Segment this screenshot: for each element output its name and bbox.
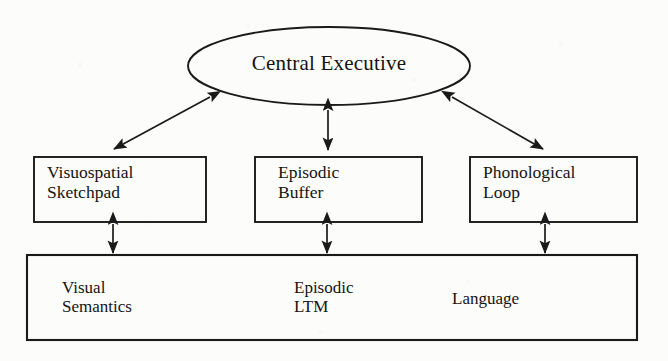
episodic-ltm-label: Episodic LTM [294, 278, 444, 316]
visuospatial-sketchpad-label: Visuospatial Sketchpad [47, 163, 207, 202]
episodic-buffer-label: Episodic Buffer [278, 163, 428, 202]
connector-ce-to-visuospatial [114, 97, 210, 149]
language-label: Language [452, 289, 602, 308]
connector-ce-to-phonological [452, 97, 543, 149]
visual-semantics-label: Visual Semantics [62, 278, 222, 316]
central-executive-label: Central Executive [188, 52, 470, 76]
working-memory-diagram: Central Executive Visuospatial Sketchpad… [0, 0, 668, 361]
phonological-loop-label: Phonological Loop [483, 163, 643, 202]
